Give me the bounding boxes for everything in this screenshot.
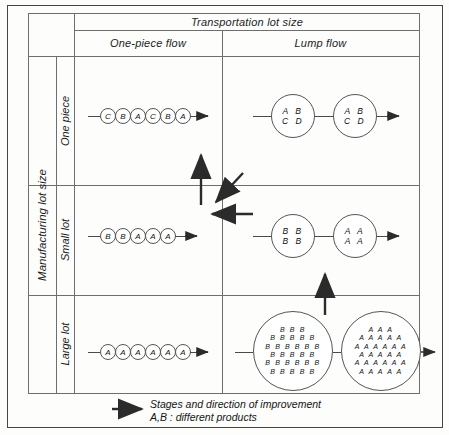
flow-node: A <box>175 108 191 124</box>
flow-line-r1c1-lead <box>88 116 100 117</box>
flow-node: A <box>160 344 176 360</box>
flow-node: A <box>160 228 176 244</box>
batch-line: A A A A A <box>359 368 402 376</box>
batch-line: A A A A A <box>359 351 402 359</box>
flow-line-r3c1-tail <box>190 352 208 353</box>
flow-node: A <box>145 344 161 360</box>
row-label-large-lot: Large lot <box>56 295 74 393</box>
batch-line: B B <box>282 236 303 246</box>
flow-node: B <box>115 228 131 244</box>
flow-line-r3c1-lead <box>88 352 100 353</box>
batch-circle-r1c2-a: A BC D <box>271 94 315 138</box>
flow-node: A <box>175 344 191 360</box>
grid-line-row1-row2 <box>28 185 420 186</box>
row-axis-title: Manufacturing lot size <box>28 56 56 393</box>
batch-line: A B <box>345 106 366 116</box>
flow-node: A <box>115 344 131 360</box>
batch-line: B B B B B <box>270 351 316 359</box>
row-label-small-lot: Small lot <box>56 185 74 295</box>
batch-line: B B B B B B <box>265 359 320 367</box>
flow-line-r1c2-mid <box>315 116 333 117</box>
batch-circle-r1c2-b: A BC D <box>333 94 377 138</box>
flow-line-r1c2-lead <box>253 116 271 117</box>
batch-line: B B B B B B <box>265 343 320 351</box>
batch-line: B B <box>282 226 303 236</box>
column-header-lump-flow: Lump flow <box>222 30 419 56</box>
flow-node: C <box>145 108 161 124</box>
column-header-one-piece-flow: One-piece flow <box>74 30 222 56</box>
row-label-large-lot-text: Large lot <box>59 323 71 366</box>
flow-line-r2c1-tail <box>175 236 197 237</box>
chain-one-piece-one-piece-flow: CBACBA <box>100 108 190 124</box>
grid-line-row-labels-right <box>74 13 75 393</box>
flow-node: B <box>160 108 176 124</box>
legend-line-2: A,B : different products <box>150 411 321 424</box>
flow-line-r2c2-tail <box>377 236 399 237</box>
flow-line-r1c2-tail <box>377 116 399 117</box>
batch-circle-r2c2-a: B BB B <box>271 214 315 258</box>
batch-line: A A A A A A <box>355 359 408 367</box>
batch-circle-r2c2-b: A AA A <box>333 214 377 258</box>
grid-line-row2-row3 <box>28 295 420 296</box>
flow-line-r2c2-lead <box>253 236 271 237</box>
grid-line-bottom <box>28 393 420 394</box>
chain-large-lot-one-piece-flow: AAAAAA <box>100 344 190 360</box>
flow-line-r2c1-lead <box>88 236 100 237</box>
figure-root: Transportation lot size One-piece flow L… <box>0 0 449 435</box>
flow-node: A <box>130 108 146 124</box>
grid-line-right-edge <box>419 13 420 393</box>
row-label-one-piece-text: One piece <box>59 95 71 145</box>
flow-node: B <box>115 108 131 124</box>
flow-node: A <box>130 228 146 244</box>
flow-node: C <box>100 108 116 124</box>
row-axis-title-text: Manufacturing lot size <box>36 169 48 281</box>
batch-circle-r3c2-b: A A AA A A A AA A A A A AA A A A AA A A … <box>341 311 421 391</box>
batch-line: C D <box>344 116 366 126</box>
batch-line: A A A A A <box>359 334 402 342</box>
legend-line-1: Stages and direction of improvement <box>150 398 321 411</box>
flow-node: A <box>100 344 116 360</box>
batch-circle-r3c2-a: B B BB B B B BB B B B B BB B B B BB B B … <box>253 311 333 391</box>
batch-line: A A A A A A <box>355 343 408 351</box>
flow-line-r2c2-mid <box>315 236 333 237</box>
batch-line: A A A <box>369 326 394 334</box>
grid-line-under-column-headers <box>28 56 420 57</box>
flow-node: B <box>100 228 116 244</box>
flow-node: A <box>145 228 161 244</box>
flow-line-r3c2-lead <box>235 352 253 353</box>
row-label-one-piece: One piece <box>56 56 74 185</box>
grid-line-column-divider <box>222 30 223 393</box>
batch-line: B B B B B <box>270 368 316 376</box>
batch-line: B B B B B <box>270 334 316 342</box>
batch-line: C D <box>282 116 304 126</box>
batch-line: A A <box>345 236 366 246</box>
flow-line-r3c2-mid <box>333 352 341 353</box>
chain-small-lot-one-piece-flow: BBAAA <box>100 228 175 244</box>
flow-node: A <box>130 344 146 360</box>
column-axis-title: Transportation lot size <box>74 13 420 30</box>
batch-line: A B <box>283 106 304 116</box>
batch-line: A A <box>345 226 366 236</box>
flow-line-r1c1-tail <box>190 116 208 117</box>
legend: Stages and direction of improvement A,B … <box>150 398 321 424</box>
row-label-small-lot-text: Small lot <box>59 219 71 261</box>
batch-line: B B B <box>280 326 306 334</box>
